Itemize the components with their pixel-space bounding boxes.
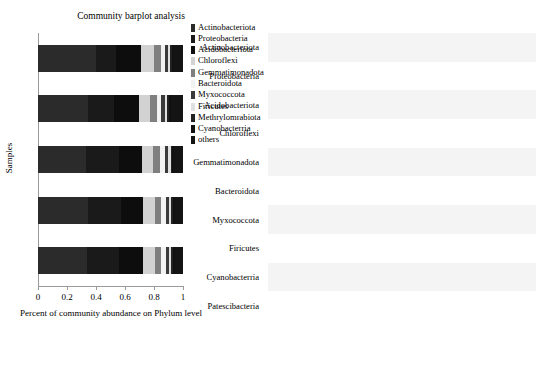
stacked-bar-segment: [38, 45, 96, 72]
legend-swatch-icon: [191, 114, 195, 122]
x-tick-label: 1: [181, 292, 186, 302]
stacked-bar-segment: [174, 146, 183, 173]
stacked-bar-segment: [139, 95, 151, 122]
stacked-bar-segment: [38, 197, 88, 224]
phylum-label: Acidobacteriota: [204, 100, 259, 110]
community-barplot-panel: Community barplot analysis CKFB5B15B25 0…: [0, 0, 268, 366]
group-band: [268, 33, 536, 62]
legend-swatch-icon: [191, 125, 195, 133]
group-band: [268, 148, 536, 177]
phylum-label: Patescibacteria: [207, 301, 259, 311]
phylum-label: Gemmatimonadota: [193, 157, 259, 167]
stacked-bar-segment: [141, 45, 154, 72]
stacked-bar-segment: [96, 45, 116, 72]
stacked-bar-segment: [150, 95, 157, 122]
stacked-bar-segment: [175, 247, 183, 274]
stacked-bar-segment: [88, 95, 114, 122]
stacked-bar-segment: [119, 146, 142, 173]
legend-swatch-icon: [191, 46, 195, 54]
stacked-bar-segment: [154, 45, 161, 72]
stacked-bar-row: [38, 197, 183, 224]
x-tick: [96, 286, 97, 290]
phylum-label: Bacteroidota: [215, 186, 259, 196]
legend-label: others: [198, 134, 219, 144]
stacked-bar-row: [38, 247, 183, 274]
stacked-bar-row: [38, 146, 183, 173]
stacked-bar-segment: [143, 247, 155, 274]
left-chart-title: Community barplot analysis: [77, 11, 185, 21]
stacked-bar-segment: [38, 146, 86, 173]
stacked-bar-row: [38, 95, 183, 122]
phylum-label: Chloroflexi: [219, 128, 259, 138]
legend-swatch-icon: [191, 136, 195, 144]
left-x-axis-label: Percent of community abundance on Phylum…: [20, 308, 202, 318]
phylum-label: Actinobacteriota: [202, 42, 259, 52]
stacked-bar-segment: [86, 146, 119, 173]
legend-label: Proteobacteria: [198, 33, 248, 43]
legend-swatch-icon: [191, 103, 195, 111]
stacked-bar-segment: [143, 197, 155, 224]
stacked-bar-segment: [175, 197, 183, 224]
phylum-label: Myxococcota: [212, 215, 259, 225]
stacked-bar-segment: [173, 45, 183, 72]
stacked-bar-segment: [114, 95, 139, 122]
x-tick: [38, 286, 39, 290]
x-tick-label: 0: [36, 292, 41, 302]
x-tick: [125, 286, 126, 290]
legend-label: Actinobacteriota: [198, 22, 255, 32]
x-tick-label: 0.2: [61, 292, 72, 302]
x-tick-label: 0.4: [90, 292, 101, 302]
stacked-bar-segment: [38, 247, 87, 274]
group-band: [268, 263, 536, 292]
x-tick-label: 0.8: [148, 292, 159, 302]
legend-swatch-icon: [191, 24, 195, 32]
stacked-bar-segment: [121, 197, 143, 224]
stacked-bar-segment: [38, 95, 88, 122]
left-y-axis-label: Samples: [4, 143, 14, 174]
x-tick: [183, 286, 184, 290]
group-band: [268, 205, 536, 234]
legend-swatch-icon: [191, 69, 195, 77]
stacked-bar-segment: [119, 247, 142, 274]
group-band: [268, 90, 536, 119]
phylum-label: Cyanobacterria: [207, 272, 260, 282]
phylum-label: Firicutes: [229, 243, 259, 253]
stacked-bar-segment: [171, 95, 183, 122]
phylum-label: Proteobacteria: [209, 71, 259, 81]
legend-label: Methrylomrabiota: [198, 112, 261, 122]
stacked-bar-row: [38, 45, 183, 72]
left-x-axis: [38, 286, 184, 287]
legend-swatch-icon: [191, 35, 195, 43]
stacked-bar-segment: [142, 146, 153, 173]
legend-swatch-icon: [191, 80, 195, 88]
stacked-bar-segment: [88, 197, 121, 224]
legend-label: Chloroflexi: [198, 55, 238, 65]
x-tick-label: 0.6: [119, 292, 130, 302]
stacked-bar-segment: [116, 45, 140, 72]
legend-swatch-icon: [191, 57, 195, 65]
legend-swatch-icon: [191, 91, 195, 99]
figure-root: Community barplot analysis CKFB5B15B25 0…: [0, 0, 536, 366]
stacked-bar-segment: [153, 146, 160, 173]
anova-barplot-panel: One-way ANOVA bar plot ActinobacteriotaP…: [268, 0, 536, 366]
stacked-bar-segment: [87, 247, 119, 274]
legend-label: Myxococcota: [198, 89, 245, 99]
x-tick: [154, 286, 155, 290]
x-tick: [67, 286, 68, 290]
